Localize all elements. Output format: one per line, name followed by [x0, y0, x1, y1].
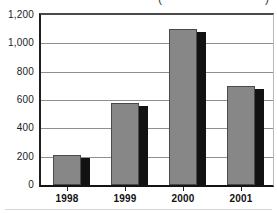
- x-label-2001: 2001: [221, 193, 261, 204]
- bar-chart: ( ) 02004006008001,0001,200 199819992000…: [0, 0, 277, 213]
- x-tick-1999: [125, 187, 126, 191]
- x-label-2000: 2000: [163, 193, 203, 204]
- x-tick-1998: [67, 187, 68, 191]
- x-tick-2000: [183, 187, 184, 191]
- x-label-1998: 1998: [47, 193, 87, 204]
- x-axis-labels: 1998199920002001: [0, 0, 277, 213]
- x-label-1999: 1999: [105, 193, 145, 204]
- x-tick-2001: [241, 187, 242, 191]
- bottom-page-rule: [5, 209, 272, 210]
